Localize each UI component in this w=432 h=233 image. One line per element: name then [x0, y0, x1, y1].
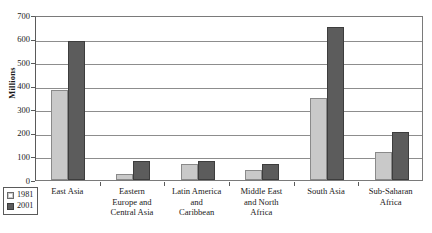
y-axis-tick-label: 700 [0, 12, 30, 21]
bar [310, 98, 327, 180]
plot-area [35, 16, 423, 181]
bar-group [359, 17, 424, 180]
legend-item[interactable]: 1981 [7, 190, 33, 201]
bar [262, 164, 279, 180]
bar [375, 152, 392, 180]
category-label-line: Europe and [100, 197, 165, 208]
bar [51, 90, 68, 180]
bar [198, 161, 215, 180]
legend: 1981 2001 [3, 187, 38, 215]
bar-group [165, 17, 230, 180]
y-axis-tick-label: 300 [0, 106, 30, 115]
category-label: Sub-SaharanAfrica [358, 186, 423, 207]
category-label-line: Central Asia [100, 207, 165, 218]
category-label: Latin AmericaandCaribbean [164, 186, 229, 218]
bar [392, 132, 409, 180]
category-label-line: and [164, 197, 229, 208]
category-label-line: Caribbean [164, 207, 229, 218]
category-label-line: Middle East [229, 186, 294, 197]
legend-label: 2001 [17, 202, 33, 210]
y-axis-tick-mark [31, 181, 35, 182]
y-axis-tick-label: 200 [0, 129, 30, 138]
category-label-line: Latin America [164, 186, 229, 197]
y-axis-tick-label: 500 [0, 59, 30, 68]
legend-label: 1981 [17, 191, 33, 199]
y-axis-tick-label: 600 [0, 35, 30, 44]
y-axis-tick-label: 100 [0, 153, 30, 162]
bar [133, 161, 150, 180]
bar [327, 27, 344, 180]
bar-group [36, 17, 101, 180]
category-label-line: East Asia [35, 186, 100, 197]
category-label-line: Africa [358, 197, 423, 208]
category-label: Middle Eastand NorthAfrica [229, 186, 294, 218]
category-label: East Asia [35, 186, 100, 197]
bar [181, 164, 198, 181]
y-axis-tick-label: 400 [0, 82, 30, 91]
bar [68, 41, 85, 180]
bar [116, 174, 133, 180]
category-label: EasternEurope andCentral Asia [100, 186, 165, 218]
category-label-line: South Asia [294, 186, 359, 197]
legend-item[interactable]: 2001 [7, 201, 33, 212]
category-label-line: Africa [229, 207, 294, 218]
category-label-line: and North [229, 197, 294, 208]
legend-swatch-2001-icon [7, 203, 14, 210]
bar [245, 170, 262, 180]
bar-group [101, 17, 166, 180]
category-label-line: Eastern [100, 186, 165, 197]
bar-group [295, 17, 360, 180]
category-label-line: Sub-Saharan [358, 186, 423, 197]
y-axis-tick-label: 0 [0, 177, 30, 186]
legend-swatch-1981-icon [7, 192, 14, 199]
bar-chart: Millions 7006005004003002001000 East Asi… [0, 0, 432, 233]
bar-group [230, 17, 295, 180]
category-label: South Asia [294, 186, 359, 197]
